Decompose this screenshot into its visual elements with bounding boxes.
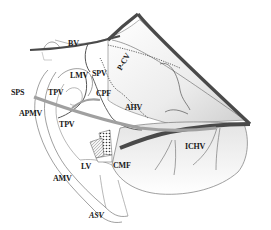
label-ichv: ICHV [185,143,205,151]
label-bv: BV [68,40,79,48]
label-tpv-upper: TPV [48,89,63,97]
label-lmv: LMV [70,72,88,80]
lower-hemisphere [112,122,247,194]
fissure-patches [90,130,112,162]
label-sps: SPS [11,89,24,97]
label-ahv: AHV [125,104,142,112]
label-tpv-lower: TPV [59,121,74,129]
label-spv: SPV [92,70,107,78]
anatomical-diagram: BV LMV SPV P-CV SPS TPV CPF APMV AHV TPV… [0,0,271,230]
label-lv: LV [81,163,91,171]
label-cmf: CMF [113,162,131,170]
label-apmv: APMV [19,110,42,118]
label-amv: AMV [53,175,72,183]
label-asv: ASV [89,212,104,220]
label-cpf: CPF [96,90,111,98]
